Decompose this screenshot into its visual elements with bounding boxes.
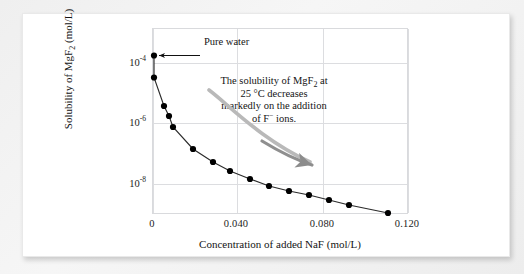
gridline-horizontal <box>153 63 407 64</box>
y-tick-label: 10-8 <box>104 178 146 189</box>
y-axis-label: Solubility of MgF2 (mol/L) <box>62 0 74 159</box>
trend-annotation-line-3: markedly on the addition <box>184 100 364 113</box>
y-axis-label-prefix: Solubility of MgF <box>62 50 74 129</box>
gridline-vertical <box>153 29 154 213</box>
y-axis-label-suffix: (mol/L) <box>62 9 74 46</box>
y-tick-exponent: -4 <box>140 54 146 63</box>
trend-line1-a: The solubility of MgF <box>220 75 313 86</box>
y-tick-exponent: -6 <box>140 114 146 123</box>
trend-annotation: The solubility of MgF2 at 25 °C decrease… <box>184 75 364 125</box>
trend-line4-a: of F <box>252 113 269 124</box>
y-tick-mantissa: 10 <box>129 117 140 128</box>
trend-line4-b: ions. <box>273 113 296 124</box>
trend-line1-b: at <box>317 75 327 86</box>
trend-annotation-line-4: of F− ions. <box>184 113 364 126</box>
y-tick-label: 10-4 <box>104 57 146 68</box>
x-axis-label: Concentration of added NaF (mol/L) <box>152 238 408 250</box>
y-tick-exponent: -8 <box>140 175 146 184</box>
y-tick-mantissa: 10 <box>129 178 140 189</box>
y-tick-mantissa: 10 <box>129 57 140 68</box>
y-tick-label: 10-6 <box>104 117 146 128</box>
x-tick-label: 0.080 <box>310 218 335 229</box>
solubility-chart: Solubility of MgF2 (mol/L) 10-4 10-6 10-… <box>22 13 508 255</box>
x-tick-label: 0.120 <box>395 218 420 229</box>
y-axis-label-subscript: 2 <box>68 46 77 50</box>
pure-water-annotation-label: Pure water <box>204 36 249 47</box>
gridline-horizontal <box>153 184 407 185</box>
trend-annotation-line-1: The solubility of MgF2 at <box>184 75 364 88</box>
gridline-vertical <box>408 29 409 213</box>
trend-annotation-line-2: 25 °C decreases <box>184 88 364 101</box>
x-tick-label: 0 <box>149 218 154 229</box>
x-tick-label: 0.040 <box>224 218 249 229</box>
